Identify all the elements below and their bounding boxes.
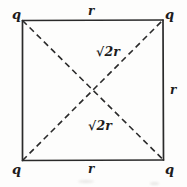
square-outline <box>23 20 164 161</box>
diagonal-label-upper: √2r <box>96 46 120 59</box>
diagonal-variable-lower: r <box>105 118 112 133</box>
diagonal-variable-upper: r <box>113 44 120 59</box>
side-label-top: r <box>88 5 94 17</box>
scan-artifact-left <box>78 180 94 183</box>
radicand-lower: 2 <box>96 118 105 133</box>
square-edge-bottom <box>23 160 164 161</box>
charge-label-bottom-left: q <box>12 163 21 176</box>
charge-label-bottom-right: q <box>165 163 174 176</box>
scan-artifact-right <box>150 182 159 185</box>
charge-label-top-left: q <box>12 8 21 21</box>
diagonals <box>23 20 164 161</box>
side-label-right: r <box>170 84 176 96</box>
square-edge-right <box>163 20 164 160</box>
diagonal-upper-line <box>23 20 164 161</box>
diagram-canvas <box>0 0 187 187</box>
side-label-bottom: r <box>88 163 94 175</box>
diagonal-label-lower: √2r <box>88 120 112 133</box>
square-edge-top <box>23 20 164 21</box>
radicand-upper: 2 <box>104 44 113 59</box>
physics-diagram-square-charges: q q q q r r r √2r √2r <box>0 0 187 187</box>
charge-label-top-right: q <box>165 8 174 21</box>
